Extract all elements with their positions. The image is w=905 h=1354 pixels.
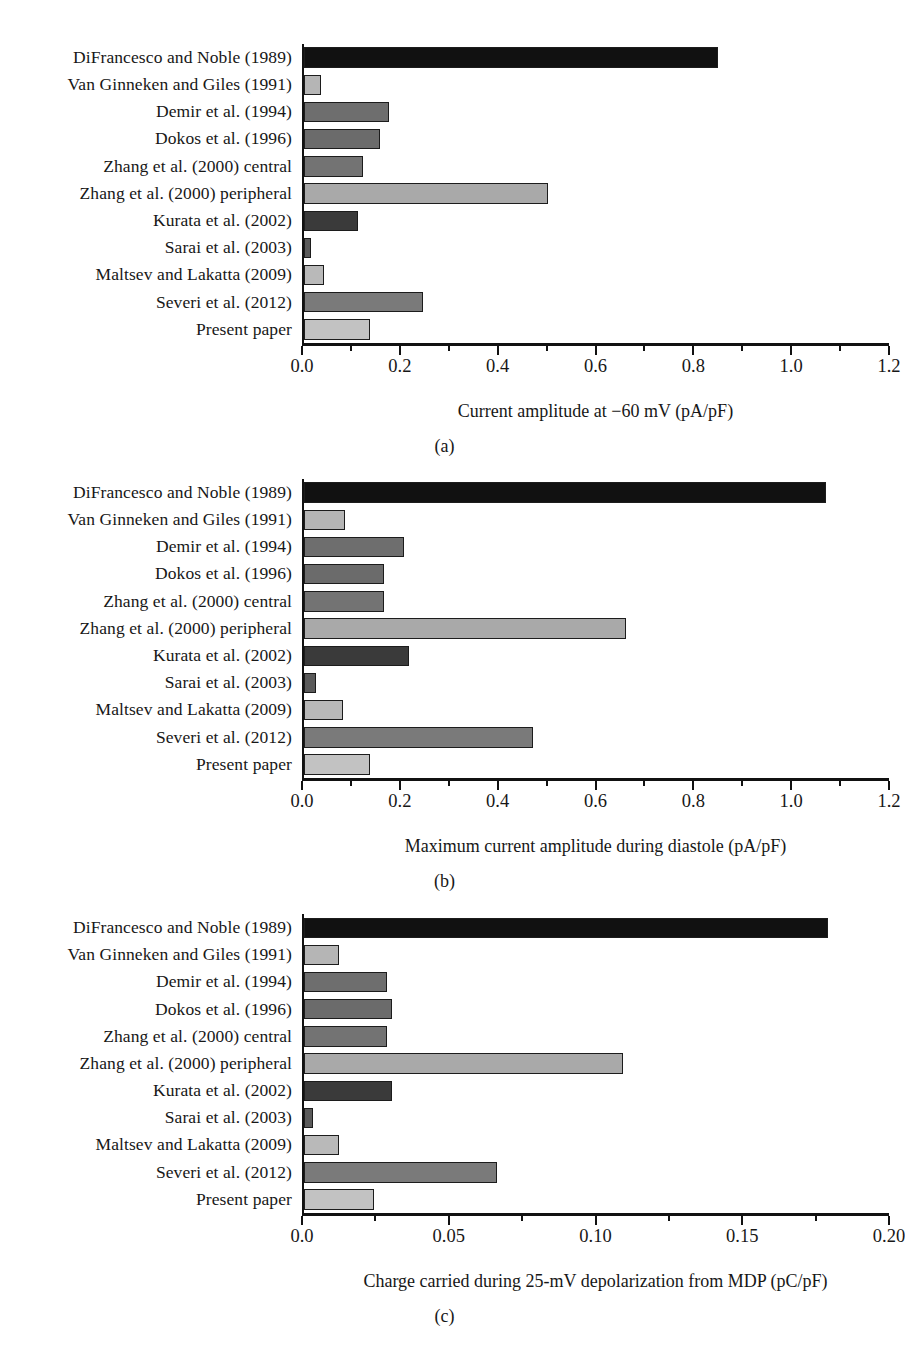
panel-a-axis-title-row: Current amplitude at −60 mV (pA/pF) xyxy=(0,395,889,422)
chart-row: Demir et al. (1994) xyxy=(0,98,889,125)
bar xyxy=(304,482,826,502)
axis-tick-label: 0.20 xyxy=(873,1226,905,1247)
bar xyxy=(304,183,548,203)
axis-tick-minor xyxy=(546,346,548,352)
chart-row: Present paper xyxy=(0,1186,889,1213)
bar-track xyxy=(302,479,889,506)
bar-track xyxy=(302,289,889,316)
axis-tick-label: 0.6 xyxy=(584,356,607,377)
chart-row: DiFrancesco and Noble (1989) xyxy=(0,479,889,506)
axis-tick-label: 0.6 xyxy=(584,791,607,812)
row-label: Dokos et al. (1996) xyxy=(0,565,302,583)
bar xyxy=(304,646,409,666)
row-label: Demir et al. (1994) xyxy=(0,973,302,991)
bar xyxy=(304,211,358,231)
bar-track xyxy=(302,207,889,234)
axis-tick-minor xyxy=(839,346,841,352)
bar xyxy=(304,754,370,774)
panel-b-axis-spacer xyxy=(0,778,302,830)
bar-track xyxy=(302,506,889,533)
chart-row: Severi et al. (2012) xyxy=(0,289,889,316)
bar xyxy=(304,47,718,67)
panel-c-axis-wrap: 0.00.050.100.150.20 xyxy=(0,1213,889,1265)
axis-tick-label: 0.0 xyxy=(290,791,313,812)
bar xyxy=(304,700,343,720)
bar-track xyxy=(302,153,889,180)
row-label: DiFrancesco and Noble (1989) xyxy=(0,484,302,502)
axis-tick-label: 0.8 xyxy=(682,791,705,812)
bar-track xyxy=(302,234,889,261)
axis-tick-major xyxy=(595,346,597,355)
panel-b-caption: (b) xyxy=(0,871,889,892)
panel-c-title-inner: Charge carried during 25-mV depolarizati… xyxy=(302,1265,889,1292)
axis-tick-major xyxy=(497,781,499,790)
row-label: Sarai et al. (2003) xyxy=(0,239,302,257)
bar-track xyxy=(302,751,889,778)
row-label: Van Ginneken and Giles (1991) xyxy=(0,946,302,964)
bar-track xyxy=(302,1104,889,1131)
chart-row: Severi et al. (2012) xyxy=(0,724,889,751)
bar-track xyxy=(302,44,889,71)
row-label: Zhang et al. (2000) peripheral xyxy=(0,620,302,638)
panel-c-axis-spacer xyxy=(0,1213,302,1265)
panel-a-xlabel: Current amplitude at −60 mV (pA/pF) xyxy=(302,401,889,422)
row-label: Kurata et al. (2002) xyxy=(0,647,302,665)
row-label: Present paper xyxy=(0,321,302,339)
chart-row: Sarai et al. (2003) xyxy=(0,1104,889,1131)
chart-row: Dokos et al. (1996) xyxy=(0,561,889,588)
axis-tick-minor xyxy=(839,781,841,787)
panel-b-title-spacer xyxy=(0,830,302,857)
bar-track xyxy=(302,316,889,343)
bar-track xyxy=(302,533,889,560)
bar xyxy=(304,265,324,285)
axis-tick-minor xyxy=(668,1216,670,1222)
axis-tick-major xyxy=(595,781,597,790)
panel-b-axis: 0.00.20.40.60.81.01.2 xyxy=(302,778,889,830)
axis-tick-major xyxy=(790,781,792,790)
chart-row: Zhang et al. (2000) peripheral xyxy=(0,615,889,642)
row-label: Zhang et al. (2000) peripheral xyxy=(0,185,302,203)
row-label: Kurata et al. (2002) xyxy=(0,1082,302,1100)
chart-row: Maltsev and Lakatta (2009) xyxy=(0,1132,889,1159)
chart-row: Sarai et al. (2003) xyxy=(0,234,889,261)
panel-b-xlabel: Maximum current amplitude during diastol… xyxy=(302,836,889,857)
bar xyxy=(304,1026,387,1046)
chart-row: Dokos et al. (1996) xyxy=(0,996,889,1023)
bar xyxy=(304,564,384,584)
chart-row: Zhang et al. (2000) central xyxy=(0,153,889,180)
axis-tick-label: 0.8 xyxy=(682,356,705,377)
bar xyxy=(304,673,316,693)
bar-track xyxy=(302,969,889,996)
bar xyxy=(304,75,321,95)
chart-row: Zhang et al. (2000) central xyxy=(0,1023,889,1050)
bar-track xyxy=(302,180,889,207)
row-label: Present paper xyxy=(0,1191,302,1209)
bar xyxy=(304,319,370,339)
bar-track xyxy=(302,642,889,669)
axis-tick-label: 0.0 xyxy=(290,1226,313,1247)
chart-row: Van Ginneken and Giles (1991) xyxy=(0,941,889,968)
axis-tick-major xyxy=(497,346,499,355)
panel-b-rows: DiFrancesco and Noble (1989)Van Ginneken… xyxy=(0,479,889,778)
bar-track xyxy=(302,262,889,289)
chart-row: DiFrancesco and Noble (1989) xyxy=(0,44,889,71)
bar xyxy=(304,945,339,965)
axis-tick-minor xyxy=(350,346,352,352)
chart-row: Maltsev and Lakatta (2009) xyxy=(0,262,889,289)
bar xyxy=(304,918,828,938)
row-label: Present paper xyxy=(0,756,302,774)
bar xyxy=(304,591,384,611)
row-label: Van Ginneken and Giles (1991) xyxy=(0,511,302,529)
panel-a-axis: 0.00.20.40.60.81.01.2 xyxy=(302,343,889,395)
axis-tick-label: 0.2 xyxy=(388,356,411,377)
axis-tick-label: 1.0 xyxy=(780,791,803,812)
panel-c-xlabel: Charge carried during 25-mV depolarizati… xyxy=(302,1271,889,1292)
bar xyxy=(304,238,311,258)
row-label: Demir et al. (1994) xyxy=(0,538,302,556)
chart-row: Zhang et al. (2000) central xyxy=(0,588,889,615)
row-label: Dokos et al. (1996) xyxy=(0,130,302,148)
row-label: Zhang et al. (2000) peripheral xyxy=(0,1055,302,1073)
axis-tick-major xyxy=(301,346,303,355)
chart-row: Demir et al. (1994) xyxy=(0,533,889,560)
axis-tick-major xyxy=(888,346,890,355)
